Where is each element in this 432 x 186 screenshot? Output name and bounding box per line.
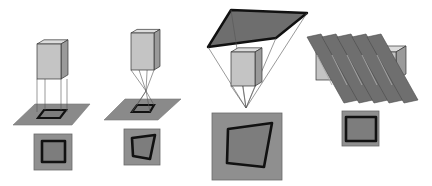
projected-footprint <box>132 105 154 112</box>
box-side-face <box>255 48 262 86</box>
panel-perspective-pinhole <box>104 29 181 165</box>
diagram-canvas <box>0 0 432 186</box>
box-front-face <box>37 44 61 79</box>
image-plane <box>208 10 307 47</box>
projected-footprint <box>38 110 66 118</box>
image-projected-shape <box>227 123 272 167</box>
projection-ray <box>131 70 146 91</box>
image-projected-shape <box>346 117 376 141</box>
projection-diagram <box>0 0 432 186</box>
image-projected-shape <box>42 141 65 162</box>
box-side-face <box>61 40 68 79</box>
image-projected-shape <box>132 135 155 159</box>
panel-pushbroom <box>307 34 418 146</box>
projection-ray <box>246 86 255 108</box>
panel-orthographic <box>13 40 90 170</box>
panel-perspective-wide <box>208 10 307 180</box>
box-front-face <box>131 33 154 70</box>
box-side-face <box>154 29 160 70</box>
box-front-face <box>231 52 255 86</box>
projection-ray <box>139 70 146 91</box>
